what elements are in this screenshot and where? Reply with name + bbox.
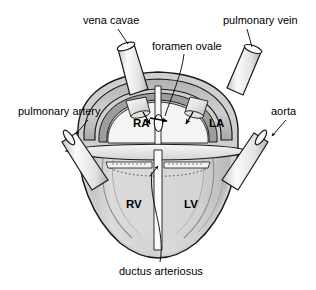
lv-valve-band — [164, 162, 210, 168]
interventricular-septum — [154, 150, 162, 250]
diagram-canvas: vena cavae pulmonary vein foramen ovale … — [0, 0, 316, 290]
aorta-leader — [272, 120, 286, 136]
label-right-ventricle: RV — [126, 198, 142, 210]
label-foramen-ovale: foramen ovale — [152, 40, 222, 53]
label-pulmonary-vein: pulmonary vein — [223, 14, 298, 27]
label-ductus-arteriosus: ductus arteriosus — [119, 265, 203, 278]
label-right-atrium: RA — [133, 117, 150, 129]
label-vena-cavae: vena cavae — [83, 14, 139, 27]
vena-cavae-leader — [118, 29, 128, 44]
pulmonary-vein-vessel — [227, 43, 263, 95]
label-pulmonary-artery: pulmonary artery — [18, 105, 101, 118]
label-left-atrium: LA — [209, 117, 224, 129]
rv-valve-band — [106, 162, 152, 168]
label-left-ventricle: LV — [184, 198, 198, 210]
foramen-ovale-opening — [154, 115, 162, 132]
label-aorta: aorta — [271, 105, 296, 118]
